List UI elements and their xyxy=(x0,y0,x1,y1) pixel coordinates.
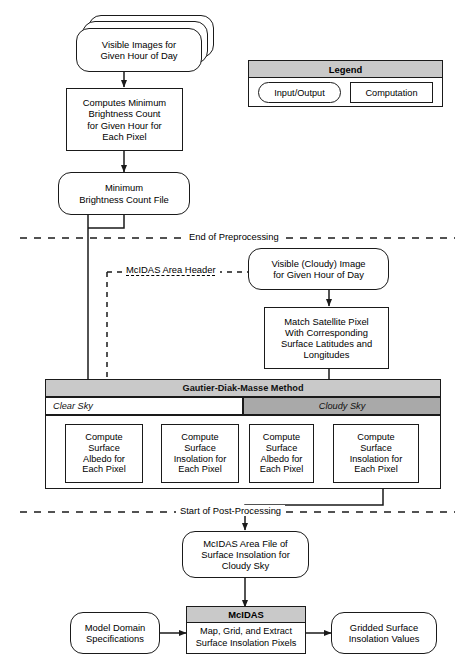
mcidas-body: Map, Grid, and Extract Surface Insolatio… xyxy=(187,623,305,652)
mcidas-title: McIDAS xyxy=(187,607,305,623)
legend-items: Input/Output Computation xyxy=(249,78,442,106)
legend-title: Legend xyxy=(249,61,442,78)
legend: Legend Input/Output Computation xyxy=(248,60,443,107)
node-cloudy-sky-compute-insolation[interactable]: Compute Surface Insolation for Each Pixe… xyxy=(333,424,419,483)
separator-label-mcidas-area-header: McIDAS Area Header xyxy=(122,264,220,275)
separator-label-start-of-postprocessing: Start of Post-Processing xyxy=(176,505,285,516)
node-model-domain-specifications[interactable]: Model Domain Specifications xyxy=(70,612,160,654)
band-cloudy-sky: Cloudy Sky xyxy=(243,397,441,415)
separator-label-end-of-preprocessing: End of Preprocessing xyxy=(185,231,283,242)
band-gautier-diak-masse-method: Gautier-Diak-Masse Method xyxy=(45,379,441,397)
flowchart-canvas: Visible Images for Given Hour of Day Com… xyxy=(0,0,471,658)
legend-chip-computation: Computation xyxy=(350,82,433,103)
node-match-satellite-pixel[interactable]: Match Satellite Pixel With Corresponding… xyxy=(264,307,389,369)
node-minimum-brightness-count-file[interactable]: Minimum Brightness Count File xyxy=(58,172,190,215)
legend-chip-input-output: Input/Output xyxy=(258,82,341,103)
node-mcidas-area-file[interactable]: McIDAS Area File of Surface Insolation f… xyxy=(182,531,309,578)
node-gridded-surface-insolation-values[interactable]: Gridded Surface Insolation Values xyxy=(331,612,437,654)
node-computes-minimum-brightness[interactable]: Computes Minimum Brightness Count for Gi… xyxy=(66,88,183,151)
node-clear-sky-compute-insolation[interactable]: Compute Surface Insolation for Each Pixe… xyxy=(161,424,239,483)
node-clear-sky-compute-albedo[interactable]: Compute Surface Albedo for Each Pixel xyxy=(65,424,143,483)
node-visible-images[interactable]: Visible Images for Given Hour of Day xyxy=(76,28,202,72)
node-cloudy-sky-compute-albedo[interactable]: Compute Surface Albedo for Each Pixel xyxy=(249,424,314,483)
band-clear-sky: Clear Sky xyxy=(45,397,243,415)
node-visible-cloudy-image[interactable]: Visible (Cloudy) Image for Given Hour of… xyxy=(248,248,389,290)
node-mcidas-process[interactable]: McIDAS Map, Grid, and Extract Surface In… xyxy=(186,606,306,654)
